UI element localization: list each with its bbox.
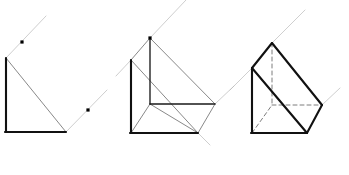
stage-2-edges-added bbox=[116, 0, 234, 145]
stage-1-axes-and-points bbox=[5, 16, 107, 132]
drawing-canvas: Oblique projection construction of a tri… bbox=[0, 0, 349, 175]
upper-45-ray-construction bbox=[6, 16, 46, 58]
stage-3-completed-prism bbox=[230, 10, 340, 133]
hypotenuse-thin bbox=[6, 58, 66, 132]
right-45-ray-construction bbox=[322, 88, 340, 105]
apex-point bbox=[148, 36, 151, 39]
point-lower bbox=[86, 108, 89, 111]
front-hypotenuse-thin bbox=[131, 60, 198, 133]
bottom-depth-edge-thin bbox=[198, 104, 215, 133]
back-right-edge-bold bbox=[307, 105, 322, 133]
prism-construction-diagram bbox=[0, 0, 349, 175]
hidden-diagonal-hidden bbox=[252, 105, 272, 133]
inner-diagonal-thin bbox=[131, 104, 150, 133]
point-upper bbox=[20, 40, 23, 43]
bottom-45-ray-construction bbox=[198, 133, 210, 145]
apex-45-ray-construction bbox=[150, 0, 186, 38]
left-depth-edge-thin bbox=[131, 38, 150, 60]
top-slope-edge-thin bbox=[150, 38, 215, 104]
base-far-edge-thin bbox=[150, 104, 198, 133]
apex-45-ray-construction bbox=[272, 10, 305, 43]
left-45-ray-construction bbox=[116, 60, 131, 76]
front-left-slope-bold bbox=[252, 43, 272, 68]
top-slope-edge-bold bbox=[272, 43, 322, 105]
left-45-ray-construction bbox=[230, 68, 252, 90]
